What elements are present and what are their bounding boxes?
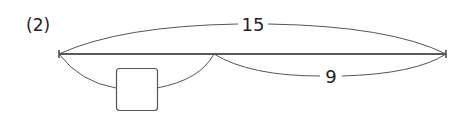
total-arc-right	[268, 24, 446, 54]
known-arc-right	[342, 54, 446, 76]
unknown-arc-left	[59, 54, 116, 88]
known-arc-left	[214, 54, 320, 76]
known-part-label: 9	[325, 66, 336, 87]
problem-number: (2)	[26, 15, 50, 35]
unknown-arc-right	[157, 54, 214, 88]
total-label: 15	[242, 14, 265, 35]
tape-diagram: (2) 15 9	[0, 0, 467, 117]
total-arc-left	[59, 24, 238, 54]
answer-box[interactable]	[117, 69, 158, 111]
